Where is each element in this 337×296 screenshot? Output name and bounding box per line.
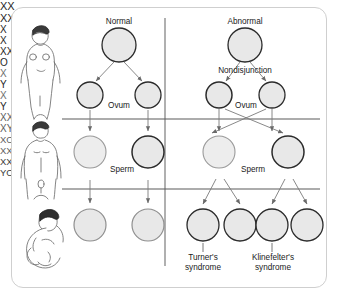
- male-figure: [21, 122, 61, 199]
- outcome-label-turner-line2: syndrome: [175, 263, 231, 273]
- column-heading-abnormal: Abnormal: [219, 17, 271, 27]
- offspring-circles: [74, 209, 323, 241]
- diagram-canvas: Normal Abnormal Nondisjunction Ovum Ovum…: [0, 0, 337, 296]
- arrows-normal: [90, 62, 148, 203]
- infant-figure: [27, 210, 64, 268]
- parent-circles: [102, 28, 262, 62]
- diagram-vector-layer: [0, 0, 337, 296]
- outcome-label-klinefelter-line2: syndrome: [240, 263, 306, 273]
- annotation-sperm-left: Sperm: [100, 165, 144, 175]
- sperm-circles: [74, 136, 304, 168]
- column-heading-normal: Normal: [95, 17, 143, 27]
- annotation-sperm-right: Sperm: [231, 165, 275, 175]
- female-figure: [21, 26, 60, 119]
- outcome-label-turner-line1: Turner's: [175, 253, 231, 263]
- annotation-ovum-right: Ovum: [226, 101, 266, 111]
- annotation-ovum-left: Ovum: [99, 101, 139, 111]
- outcome-leader-lines: [203, 243, 272, 252]
- outcome-label-klinefelter-line1: Klinefelter's: [240, 253, 306, 263]
- annotation-nondisjunction: Nondisjunction: [203, 66, 287, 76]
